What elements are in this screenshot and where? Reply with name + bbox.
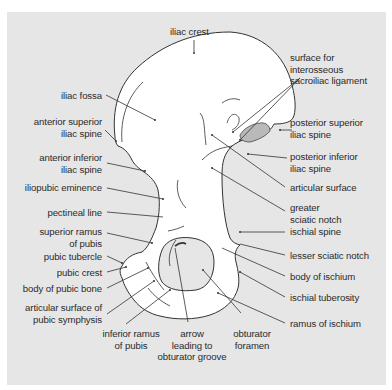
label-iliac-crest: iliac crest bbox=[170, 26, 209, 38]
label-posterior-superior-iliac-spine: posterior superior iliac spine bbox=[290, 117, 363, 140]
label-ischial-tuberosity: ischial tuberosity bbox=[290, 292, 359, 304]
label-articular-surface: articular surface bbox=[290, 182, 357, 194]
label-anterior-inferior-iliac-spine: anterior inferior iliac spine bbox=[39, 152, 102, 175]
label-pubic-crest: pubic crest bbox=[57, 267, 102, 279]
label-surface-for-interosseous-sacroiliac-ligament: surface for interosseous sacroiliac liga… bbox=[290, 52, 367, 87]
label-pubic-tubercle: pubic tubercle bbox=[44, 251, 102, 263]
obturator-foramen-shape bbox=[159, 238, 214, 291]
label-ramus-of-ischium: ramus of ischium bbox=[290, 318, 361, 330]
label-arrow-leading-to-obturator-groove: arrow leading to obturator groove bbox=[154, 328, 230, 363]
label-lesser-sciatic-notch: lesser sciatic notch bbox=[290, 250, 369, 262]
label-pectineal-line: pectineal line bbox=[47, 207, 102, 219]
label-anterior-superior-iliac-spine: anterior superior iliac spine bbox=[34, 116, 102, 139]
label-obturator-foramen: obturator foramen bbox=[222, 328, 282, 351]
label-posterior-inferior-iliac-spine: posterior inferior iliac spine bbox=[290, 151, 358, 174]
label-greater-sciatic-notch: greater sciatic notch bbox=[290, 202, 342, 225]
label-ischial-spine: ischial spine bbox=[290, 226, 341, 238]
label-iliopubic-eminence: iliopubic eminence bbox=[25, 182, 102, 194]
label-articular-surface-of-pubic-symphysis: articular surface of pubic symphysis bbox=[25, 302, 102, 325]
label-iliac-fossa: iliac fossa bbox=[61, 90, 102, 102]
label-body-of-pubic-bone: body of pubic bone bbox=[23, 283, 102, 295]
label-body-of-ischium: body of ischium bbox=[290, 271, 355, 283]
label-superior-ramus-of-pubis: superior ramus of pubis bbox=[39, 226, 102, 249]
